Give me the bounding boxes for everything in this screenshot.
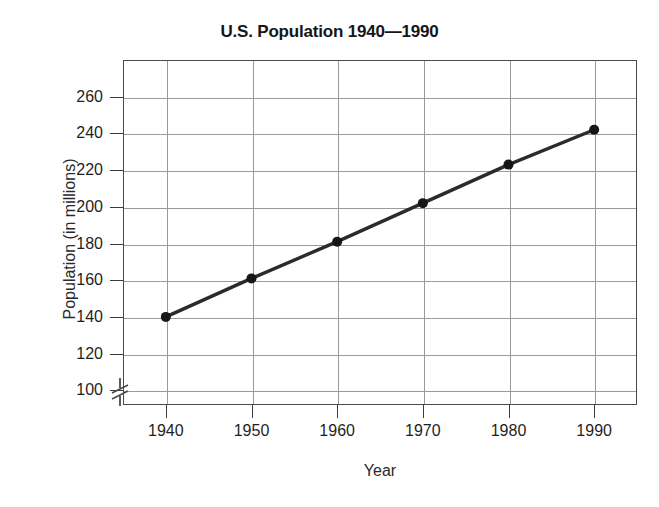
x-tick-mark xyxy=(423,405,424,418)
x-tick-label: 1970 xyxy=(388,422,458,440)
x-tick-label: 1980 xyxy=(474,422,544,440)
x-tick-mark xyxy=(337,405,338,418)
plot-area xyxy=(123,60,637,405)
y-tick-label: 140 xyxy=(43,308,103,326)
x-tick-label: 1950 xyxy=(217,422,287,440)
y-tick-label: 240 xyxy=(43,124,103,142)
gridline-horizontal xyxy=(124,245,636,246)
x-tick-label: 1940 xyxy=(131,422,201,440)
gridline-horizontal xyxy=(124,391,636,392)
y-tick-mark xyxy=(110,133,123,134)
x-axis-title: Year xyxy=(123,462,637,480)
y-tick-label: 260 xyxy=(43,88,103,106)
y-tick-label: 200 xyxy=(43,198,103,216)
x-tick-label: 1960 xyxy=(302,422,372,440)
y-tick-label: 120 xyxy=(43,345,103,363)
y-tick-mark xyxy=(110,170,123,171)
gridline-vertical xyxy=(595,61,596,404)
gridline-horizontal xyxy=(124,98,636,99)
y-tick-mark xyxy=(110,354,123,355)
y-tick-label: 100 xyxy=(43,381,103,399)
axis-break-icon xyxy=(106,374,142,410)
x-tick-mark xyxy=(252,405,253,418)
gridline-horizontal xyxy=(124,208,636,209)
gridline-vertical xyxy=(424,61,425,404)
x-tick-mark xyxy=(166,405,167,418)
y-tick-label: 180 xyxy=(43,235,103,253)
chart-figure: U.S. Population 1940—1990 Population (in… xyxy=(0,0,659,507)
y-tick-label: 160 xyxy=(43,271,103,289)
chart-title: U.S. Population 1940—1990 xyxy=(0,22,659,42)
gridline-horizontal xyxy=(124,281,636,282)
y-tick-mark xyxy=(110,207,123,208)
gridline-horizontal xyxy=(124,171,636,172)
gridline-horizontal xyxy=(124,318,636,319)
gridline-vertical xyxy=(338,61,339,404)
gridline-vertical xyxy=(510,61,511,404)
gridline-vertical xyxy=(167,61,168,404)
x-tick-mark xyxy=(594,405,595,418)
y-tick-label: 220 xyxy=(43,161,103,179)
y-tick-mark xyxy=(110,280,123,281)
y-tick-mark xyxy=(110,97,123,98)
gridline-horizontal xyxy=(124,134,636,135)
x-tick-mark xyxy=(509,405,510,418)
gridline-vertical xyxy=(253,61,254,404)
y-tick-mark xyxy=(110,244,123,245)
y-tick-mark xyxy=(110,317,123,318)
gridline-horizontal xyxy=(124,355,636,356)
x-tick-label: 1990 xyxy=(559,422,629,440)
